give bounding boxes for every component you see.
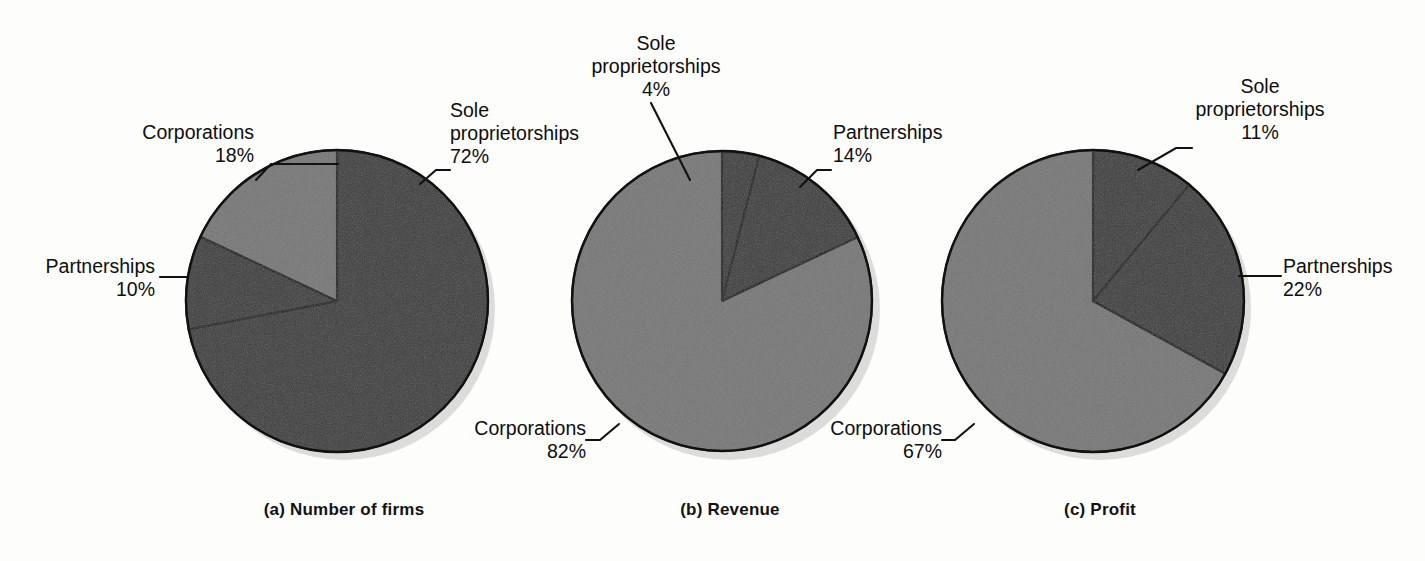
leader-b-corporations — [587, 424, 619, 440]
pie-chart-b — [572, 151, 872, 451]
label-a-partnerships: Partnerships 10% — [0, 255, 155, 301]
pie-chart-a — [186, 150, 488, 452]
pie-chart-c — [942, 150, 1244, 452]
label-a-sole-proprietorships: Sole proprietorships 72% — [450, 99, 680, 168]
label-b-corporations: Corporations 82% — [386, 417, 586, 463]
leader-c-corporations — [942, 424, 974, 440]
caption-panel-c: (c) Profit — [1000, 500, 1200, 520]
label-c-corporations: Corporations 67% — [742, 417, 942, 463]
caption-panel-a: (a) Number of firms — [244, 500, 444, 520]
label-a-corporations: Corporations 18% — [34, 121, 254, 167]
caption-panel-b: (b) Revenue — [630, 500, 830, 520]
pie-chart-figure: Corporations 18% Partnerships 10% Sole p… — [0, 0, 1425, 561]
label-b-partnerships: Partnerships 14% — [833, 121, 1033, 167]
label-c-sole-proprietorships: Sole proprietorships 11% — [1145, 75, 1375, 144]
label-c-partnerships: Partnerships 22% — [1283, 255, 1425, 301]
label-b-sole-proprietorships: Sole proprietorships 4% — [561, 32, 751, 101]
